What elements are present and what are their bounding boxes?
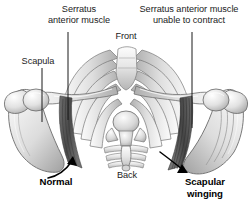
label-front: Front — [92, 31, 160, 42]
vertebra — [106, 111, 146, 146]
humeral-head-right — [203, 89, 229, 111]
label-normal: Normal — [18, 176, 94, 188]
humeral-head-left — [23, 89, 49, 111]
sternum — [116, 47, 137, 90]
label-back: Back — [100, 170, 154, 181]
label-scapula: Scapula — [2, 56, 74, 67]
scapular-winging-figure: Serratus anterior muscle Serratus anteri… — [0, 0, 252, 213]
label-serratus-anterior-unable-to-contract: Serratus anterior muscle unable to contr… — [126, 4, 252, 26]
spinous-process — [121, 146, 131, 171]
label-serratus-anterior-muscle: Serratus anterior muscle — [20, 4, 138, 26]
label-scapular-winging: Scapular winging — [160, 176, 250, 199]
